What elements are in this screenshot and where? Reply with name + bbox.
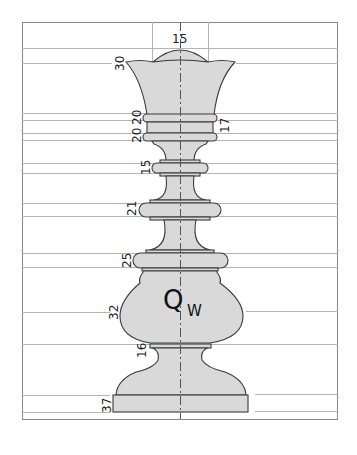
dim-base: 37 [100,398,114,413]
dim-ring-25: 25 [120,253,134,268]
dim-crown: 30 [113,56,127,71]
piece-label: Q [163,285,183,315]
dim-crown-top: 15 [172,32,187,46]
dim-ring-21: 21 [125,201,139,216]
dim-neck: 16 [135,343,149,358]
queen-chess-piece-drawing: Q W 15 30 20 20 17 15 21 25 32 16 37 [0,0,357,455]
dim-body: 32 [107,305,121,320]
dim-ring-15: 15 [139,160,153,175]
dim-ring-upper: 20 [130,110,144,125]
dim-collar: 17 [218,118,232,133]
piece-label-subscript: W [187,302,202,320]
dim-ring-lower: 20 [130,128,144,143]
